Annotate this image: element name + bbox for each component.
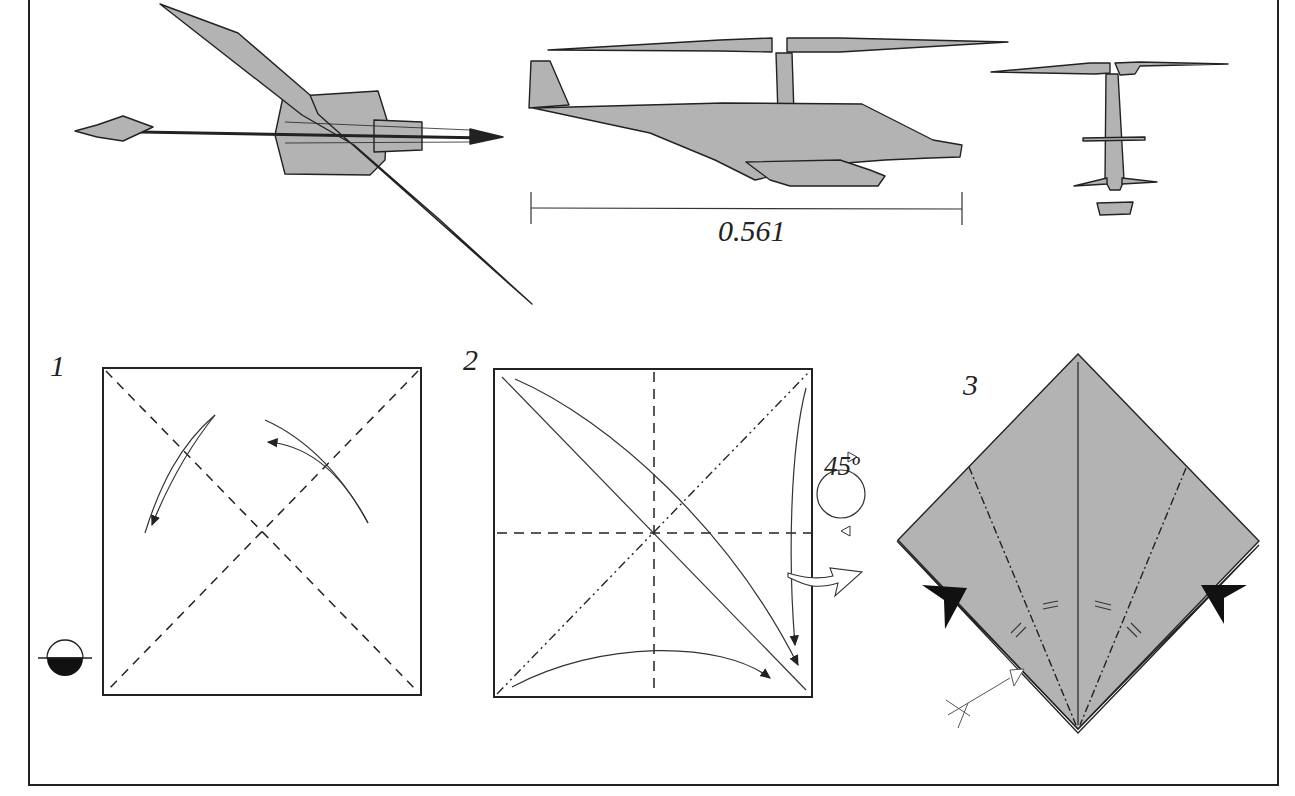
front-view-model [991, 62, 1228, 215]
diagram-canvas [0, 0, 1295, 796]
step-3-number: 3 [963, 368, 978, 402]
step-1-number: 1 [50, 349, 65, 383]
top-view-model [75, 4, 532, 304]
step-2-square [494, 369, 812, 697]
open-arrow-icon [946, 669, 1024, 728]
side-view-model [529, 38, 1008, 186]
rotation-label: 45º [824, 451, 859, 482]
step-3-diamond [897, 354, 1259, 733]
push-arrow-right-icon [1201, 585, 1247, 624]
step-2-number: 2 [463, 343, 478, 377]
colored-side-down-icon [38, 640, 92, 676]
scale-value: 0.561 [718, 214, 786, 248]
step-1-square [103, 368, 421, 695]
